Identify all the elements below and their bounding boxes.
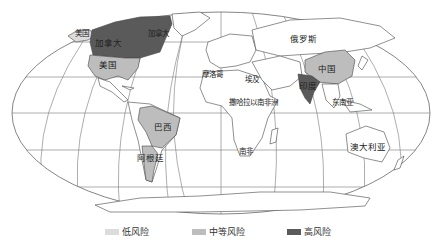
legend-swatch-low bbox=[105, 229, 119, 235]
country-label: 巴西 bbox=[154, 123, 172, 132]
world-risk-map bbox=[0, 0, 440, 220]
legend-label: 低风险 bbox=[122, 225, 149, 238]
country-label: 加拿大 bbox=[95, 39, 122, 48]
country-label: 东南亚 bbox=[332, 99, 353, 107]
central-america bbox=[98, 78, 128, 102]
country-label: 美国 bbox=[99, 61, 117, 70]
legend-swatch-high bbox=[287, 229, 301, 235]
legend-swatch-medium bbox=[192, 229, 206, 235]
country-label: 中国 bbox=[318, 65, 336, 74]
country-label: 南非 bbox=[239, 148, 253, 156]
europe bbox=[206, 34, 256, 68]
country-label: 俄罗斯 bbox=[290, 35, 317, 44]
legend-item-low: 低风险 bbox=[105, 225, 149, 238]
legend-label: 中等风险 bbox=[209, 225, 245, 238]
country-label: 阿根廷 bbox=[137, 154, 164, 163]
country-label: 澳大利亚 bbox=[350, 143, 386, 152]
legend: 低风险 中等风险 高风险 bbox=[0, 222, 440, 242]
country-russia bbox=[252, 18, 395, 56]
country-argentina[interactable] bbox=[142, 146, 158, 182]
country-label: 加拿大 bbox=[148, 30, 169, 38]
legend-label: 高风险 bbox=[304, 225, 331, 238]
greenland bbox=[172, 12, 210, 36]
legend-item-high: 高风险 bbox=[287, 225, 331, 238]
antarctica bbox=[95, 192, 370, 212]
country-label: 美国 bbox=[75, 30, 89, 38]
country-label: 埃及 bbox=[245, 76, 259, 84]
country-label: 摩洛哥 bbox=[202, 71, 223, 79]
country-label: 撒哈拉以南非洲 bbox=[229, 99, 278, 107]
country-label: 印度 bbox=[299, 82, 317, 91]
legend-item-medium: 中等风险 bbox=[192, 225, 245, 238]
